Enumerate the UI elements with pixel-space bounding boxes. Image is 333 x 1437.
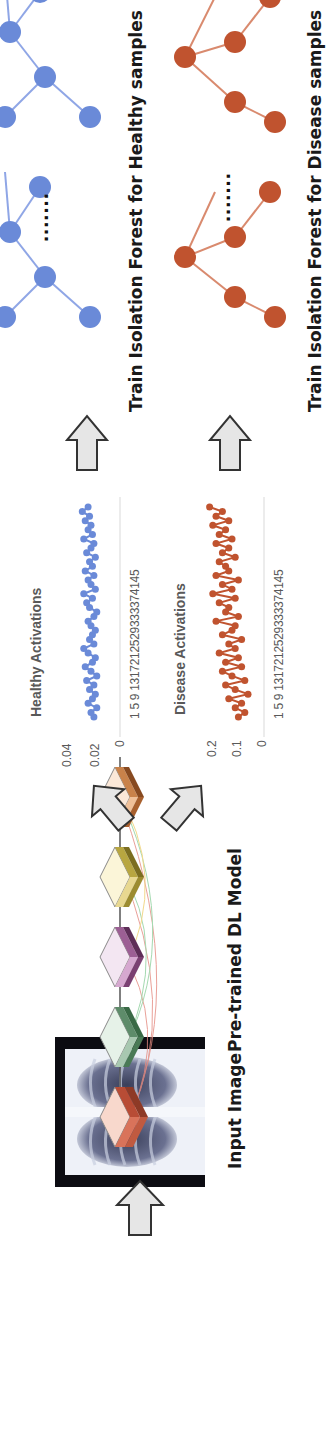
disease-ytick: 0 bbox=[255, 740, 269, 747]
arrow-right-icon bbox=[115, 1177, 165, 1237]
disease-xticks: 1 5 9 1317212529333374145 bbox=[272, 570, 286, 719]
input-image-label: Input Image bbox=[225, 1053, 245, 1169]
healthy-ytick: 0 bbox=[113, 740, 127, 747]
healthy-ytick: 0.04 bbox=[60, 744, 74, 767]
disease-ytick: 0.1 bbox=[230, 740, 244, 757]
arrow-down-right-icon bbox=[160, 777, 210, 832]
healthy-forest-graphic bbox=[0, 0, 115, 377]
healthy-line-chart bbox=[62, 497, 122, 737]
disease-forest-ellipsis: ....... bbox=[210, 172, 236, 222]
disease-forest-label: Train Isolation Forest for Disease sampl… bbox=[305, 10, 325, 412]
healthy-forest-ellipsis: ....... bbox=[28, 192, 54, 242]
disease-line-chart bbox=[200, 497, 266, 737]
healthy-forest-label: Train Isolation Forest for Healthy sampl… bbox=[126, 10, 146, 412]
healthy-xticks: 1 5 9 1317212529333374145 bbox=[128, 570, 142, 719]
arrow-right-icon bbox=[208, 412, 253, 472]
disease-ytick: 0.2 bbox=[205, 740, 219, 757]
layer-block-1 bbox=[100, 1087, 148, 1147]
disease-chart-title: Disease Activations bbox=[172, 583, 188, 715]
pipeline-diagram: Input Image bbox=[0, 0, 333, 1437]
layer-block-2 bbox=[100, 1007, 144, 1067]
model-label: Pre-trained DL Model bbox=[225, 848, 245, 1052]
arrow-right-icon bbox=[65, 412, 110, 472]
healthy-chart-title: Healthy Activations bbox=[28, 588, 44, 717]
layer-block-4 bbox=[100, 847, 144, 907]
healthy-ytick: 0.02 bbox=[88, 744, 102, 767]
arrow-up-right-icon bbox=[85, 777, 135, 832]
